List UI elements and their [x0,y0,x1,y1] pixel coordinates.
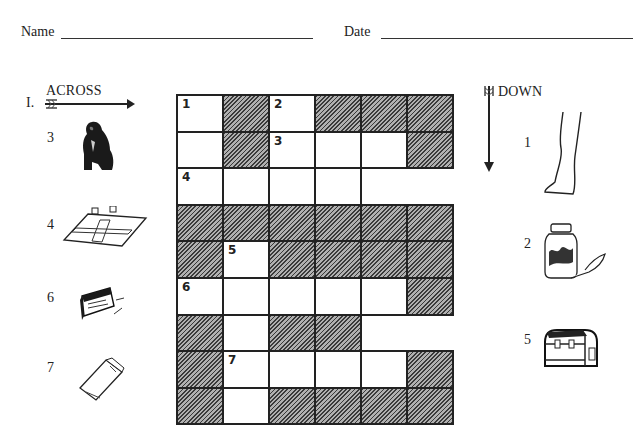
jam-jar-icon [543,222,609,282]
blocked-cell [407,278,453,315]
crossword-cell[interactable] [315,132,361,169]
blocked-cell [223,132,269,169]
blocked-cell [315,95,361,132]
cell-number: 1 [182,97,190,111]
name-field[interactable] [61,38,313,39]
blocked-cell [315,388,361,425]
cell-number: 2 [274,97,282,111]
blocked-cell [361,241,407,278]
crossword-cell[interactable] [315,278,361,315]
crossword-cell[interactable] [177,132,223,169]
across-clue-number: 3 [47,130,54,146]
leg-icon [543,112,583,198]
blocked-cell [407,351,453,388]
down-clue-number: 1 [524,135,531,151]
cell-number: 5 [228,243,236,257]
cell-number: 3 [274,134,282,148]
across-title: ACROSS [46,83,102,99]
empty-notch [361,168,407,205]
blocked-cell [223,205,269,242]
crossword-cell[interactable]: 4 [177,168,223,205]
crossword-cell[interactable] [315,351,361,388]
empty-notch [361,315,407,352]
blocked-cell [223,95,269,132]
board-game-icon [62,206,148,248]
gorilla-icon [80,120,116,172]
down-arrow-icon [483,84,495,172]
blocked-cell [407,95,453,132]
crossword-cell[interactable] [269,168,315,205]
crossword-cell[interactable]: 1 [177,95,223,132]
crossword-cell[interactable] [223,278,269,315]
blocked-cell [269,388,315,425]
crossword-cell[interactable] [361,132,407,169]
blocked-cell [361,205,407,242]
across-clue-number: 6 [47,290,54,306]
cell-number: 7 [228,353,236,367]
date-field[interactable] [381,38,633,39]
empty-notch [407,315,453,352]
blocked-cell [315,241,361,278]
blocked-cell [315,205,361,242]
blocked-cell [269,241,315,278]
blocked-cell [407,241,453,278]
blocked-cell [361,388,407,425]
blocked-cell [407,132,453,169]
across-arrow-icon [43,98,135,110]
crossword-cell[interactable]: 3 [269,132,315,169]
name-label: Name [21,24,54,40]
blocked-cell [269,315,315,352]
blocked-cell [177,315,223,352]
crossword-cell[interactable]: 2 [269,95,315,132]
crossword-cell[interactable]: 7 [223,351,269,388]
blocked-cell [361,95,407,132]
across-clue-number: 4 [47,217,54,233]
crossword-cell[interactable]: 5 [223,241,269,278]
date-label: Date [344,24,370,40]
cell-number: 4 [182,170,190,184]
across-start-marker: I. [26,95,34,111]
crossword-cell[interactable] [223,388,269,425]
down-clue-number: 5 [524,332,531,348]
box-icon [78,286,126,322]
crossword-cell[interactable] [223,168,269,205]
crossword-cell[interactable] [269,278,315,315]
blocked-cell [407,205,453,242]
carton-icon [78,356,128,402]
blocked-cell [315,315,361,352]
blocked-cell [177,388,223,425]
crossword-cell[interactable] [361,351,407,388]
empty-notch [407,168,453,205]
across-clue-number: 7 [47,360,54,376]
blocked-cell [269,205,315,242]
crossword-cell[interactable] [269,351,315,388]
down-title: DOWN [498,84,542,100]
crossword-cell[interactable] [361,278,407,315]
lunchbox-icon [543,326,599,370]
blocked-cell [407,388,453,425]
cell-number: 6 [182,280,190,294]
crossword-grid: 1234567 [177,95,453,424]
crossword-cell[interactable] [223,315,269,352]
down-clue-number: 2 [524,236,531,252]
crossword-cell[interactable]: 6 [177,278,223,315]
blocked-cell [177,205,223,242]
blocked-cell [177,241,223,278]
blocked-cell [177,351,223,388]
crossword-cell[interactable] [315,168,361,205]
